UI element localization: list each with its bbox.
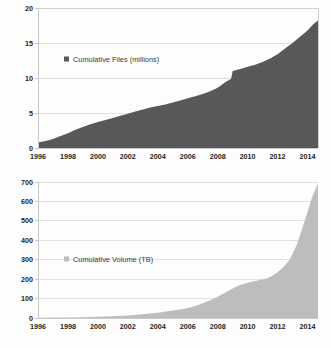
volume-legend-label: Cumulative Volume (TB) bbox=[73, 255, 153, 264]
volume-ytick-label: 100 bbox=[21, 294, 33, 303]
files-ytick-label: 20 bbox=[25, 4, 33, 13]
files-xtick-label: 2014 bbox=[300, 152, 316, 161]
volume-xtick-label: 2012 bbox=[270, 322, 286, 331]
files-ytick-label: 10 bbox=[25, 74, 33, 83]
files-ytick-label: 5 bbox=[29, 109, 33, 118]
files-xtick-label: 1996 bbox=[30, 152, 46, 161]
files-legend-label: Cumulative Files (millions) bbox=[73, 55, 159, 64]
files-legend: Cumulative Files (millions) bbox=[64, 55, 159, 64]
volume-y-axis-ticks: 0100200300400500600700 bbox=[21, 178, 38, 323]
volume-ytick-label: 700 bbox=[21, 178, 33, 187]
files-x-axis-ticks: 1996199820002002200420062008201020122014 bbox=[30, 152, 316, 161]
volume-legend-swatch bbox=[64, 257, 69, 262]
volume-ytick-label: 400 bbox=[21, 236, 33, 245]
volume-ytick-label: 600 bbox=[21, 197, 33, 206]
files-xtick-label: 2000 bbox=[90, 152, 106, 161]
files-xtick-label: 2004 bbox=[150, 152, 166, 161]
volume-legend: Cumulative Volume (TB) bbox=[64, 255, 153, 264]
volume-ytick-label: 200 bbox=[21, 275, 33, 284]
volume-area-series bbox=[38, 184, 318, 318]
chart-panel-cumulative-files: 05101520 1996199820002002200420062008201… bbox=[0, 0, 331, 174]
files-xtick-label: 2008 bbox=[210, 152, 226, 161]
volume-xtick-label: 2000 bbox=[90, 322, 106, 331]
volume-xtick-label: 1996 bbox=[30, 322, 46, 331]
volume-xtick-label: 2010 bbox=[240, 322, 256, 331]
volume-xtick-label: 2002 bbox=[120, 322, 136, 331]
volume-xtick-label: 1998 bbox=[60, 322, 76, 331]
files-xtick-label: 2002 bbox=[120, 152, 136, 161]
files-area-series bbox=[38, 21, 318, 148]
files-xtick-label: 2006 bbox=[180, 152, 196, 161]
volume-xtick-label: 2004 bbox=[150, 322, 166, 331]
files-xtick-label: 2012 bbox=[270, 152, 286, 161]
volume-ytick-label: 300 bbox=[21, 255, 33, 264]
volume-x-axis-ticks: 1996199820002002200420062008201020122014 bbox=[30, 322, 316, 331]
cumulative-files-svg: 05101520 1996199820002002200420062008201… bbox=[0, 0, 331, 174]
volume-xtick-label: 2008 bbox=[210, 322, 226, 331]
chart-panel-cumulative-volume: 0100200300400500600700 19961998200020022… bbox=[0, 174, 331, 348]
files-legend-swatch bbox=[64, 57, 69, 62]
dual-area-chart-figure: 05101520 1996199820002002200420062008201… bbox=[0, 0, 331, 348]
files-ytick-label: 15 bbox=[25, 39, 33, 48]
volume-xtick-label: 2006 bbox=[180, 322, 196, 331]
cumulative-volume-svg: 0100200300400500600700 19961998200020022… bbox=[0, 174, 331, 348]
volume-xtick-label: 2014 bbox=[300, 322, 316, 331]
files-xtick-label: 2010 bbox=[240, 152, 256, 161]
files-xtick-label: 1998 bbox=[60, 152, 76, 161]
volume-ytick-label: 500 bbox=[21, 216, 33, 225]
files-y-axis-ticks: 05101520 bbox=[25, 4, 38, 153]
